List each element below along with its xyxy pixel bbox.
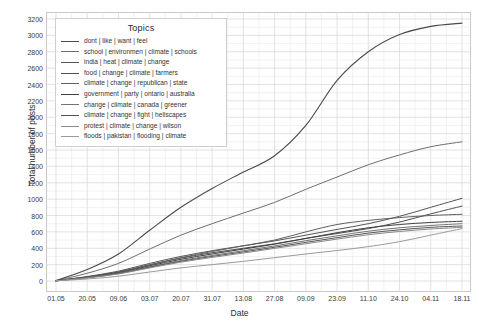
y-tick-label: 600 (31, 228, 43, 235)
line-chart: Total number of posts 020040060080010001… (0, 0, 479, 330)
legend-item: change | climate | canada | greener (61, 100, 221, 111)
legend-color-swatch (61, 94, 79, 95)
x-tick-label: 27.08 (266, 295, 284, 302)
x-tick-label: 09.06 (110, 295, 128, 302)
legend-item: floods | pakistan | flooding | climate (61, 131, 221, 142)
legend-item-label: dont | like | want | feel (84, 36, 147, 47)
legend-item-label: government | party | ontario | australia (84, 89, 195, 100)
x-tick-label: 11.10 (360, 295, 377, 302)
x-tick-label: 13.08 (235, 295, 253, 302)
x-tick-label: 09.09 (297, 295, 315, 302)
legend-color-swatch (61, 73, 79, 74)
y-tick-label: 1400 (27, 163, 43, 170)
legend-color-swatch (61, 115, 79, 116)
legend-color-swatch (61, 104, 79, 105)
x-tick-label: 20.05 (78, 295, 96, 302)
x-tick-label: 20.07 (172, 295, 190, 302)
legend-item-label: change | climate | canada | greener (84, 100, 187, 111)
legend-item: school | environmen | climate | schools (61, 47, 221, 58)
y-tick-label: 2000 (27, 114, 43, 121)
x-tick-label: 01.05 (47, 295, 65, 302)
y-tick-label: 200 (31, 261, 43, 268)
legend: Topics dont | like | want | feelschool |… (55, 18, 227, 147)
legend-item-label: floods | pakistan | flooding | climate (84, 131, 186, 142)
legend-item: climate | change | republican | state (61, 78, 221, 89)
legend-item-label: climate | change | fight | hellscapes (84, 110, 186, 121)
legend-color-swatch (61, 51, 79, 52)
legend-items: dont | like | want | feelschool | enviro… (61, 36, 221, 142)
y-tick-label: 3200 (27, 16, 43, 23)
legend-item-label: protest | climate | change | wilson (84, 121, 181, 132)
legend-item-label: food | change | climate | farmers (84, 68, 178, 79)
legend-color-swatch (61, 41, 79, 42)
y-tick-label: 1600 (27, 147, 43, 154)
legend-item-label: india | heat | climate | change (84, 57, 169, 68)
y-tick-label: 3000 (27, 32, 43, 39)
x-tick-label: 03.07 (141, 295, 159, 302)
x-tick-label: 23.09 (328, 295, 346, 302)
y-tick-label: 2400 (27, 81, 43, 88)
legend-title: Topics (61, 23, 221, 33)
x-tick-label: 24.10 (391, 295, 409, 302)
y-tick-label: 1800 (27, 130, 43, 137)
legend-item: dont | like | want | feel (61, 36, 221, 47)
y-axis-tick-labels: 0200400600800100012001400160018002000220… (0, 0, 43, 330)
legend-item-label: climate | change | republican | state (84, 78, 187, 89)
y-tick-label: 400 (31, 245, 43, 252)
legend-item: india | heat | climate | change (61, 57, 221, 68)
legend-item: protest | climate | change | wilson (61, 121, 221, 132)
legend-color-swatch (61, 62, 79, 63)
legend-color-swatch (61, 136, 79, 137)
x-tick-label: 18.11 (454, 295, 471, 302)
y-tick-label: 1000 (27, 196, 43, 203)
legend-item: food | change | climate | farmers (61, 68, 221, 79)
y-tick-label: 2800 (27, 48, 43, 55)
y-tick-label: 2200 (27, 97, 43, 104)
y-tick-label: 2600 (27, 65, 43, 72)
legend-item-label: school | environmen | climate | schools (84, 47, 197, 58)
x-axis-title: Date (0, 308, 479, 318)
x-tick-label: 04.11 (422, 295, 439, 302)
legend-item: government | party | ontario | australia (61, 89, 221, 100)
y-tick-label: 800 (31, 212, 43, 219)
legend-item: climate | change | fight | hellscapes (61, 110, 221, 121)
x-tick-label: 31.07 (203, 295, 221, 302)
legend-color-swatch (61, 126, 79, 127)
y-tick-label: 1200 (27, 179, 43, 186)
legend-color-swatch (61, 83, 79, 84)
y-tick-label: 0 (39, 278, 43, 285)
